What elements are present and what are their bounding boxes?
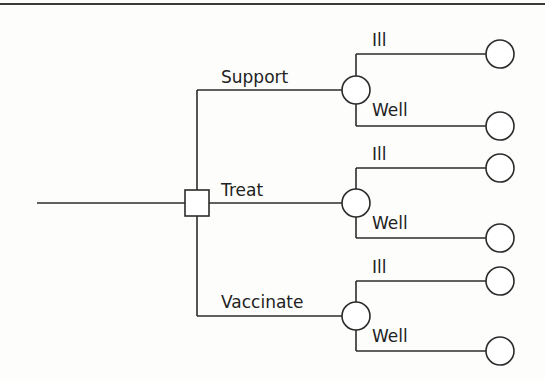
chance-node-vaccinate	[342, 302, 370, 330]
branch-treat: Treat Ill Well	[209, 144, 514, 252]
terminal-node-vaccinate-well	[486, 337, 514, 365]
outcome-support-ill-label: Ill	[372, 30, 386, 50]
outcome-support-well-label: Well	[372, 100, 408, 120]
terminal-node-support-well	[486, 112, 514, 140]
terminal-node-treat-ill	[486, 154, 514, 182]
terminal-node-support-ill	[486, 40, 514, 68]
decision-tree-diagram: Support Ill Well Treat Ill Well Vaccinat…	[0, 0, 545, 380]
outcome-treat-ill-label: Ill	[372, 144, 386, 164]
branch-support: Support Ill Well	[197, 30, 514, 140]
chance-node-support	[342, 76, 370, 104]
branch-vaccinate: Vaccinate Ill Well	[197, 257, 514, 365]
terminal-node-treat-well	[486, 224, 514, 252]
chance-node-treat	[342, 189, 370, 217]
decision-node	[185, 190, 209, 216]
terminal-node-vaccinate-ill	[486, 267, 514, 295]
outcome-treat-well-label: Well	[372, 213, 408, 233]
outcome-vaccinate-well-label: Well	[372, 326, 408, 346]
branch-support-label: Support	[221, 67, 289, 87]
branch-vaccinate-label: Vaccinate	[221, 292, 303, 312]
outcome-vaccinate-ill-label: Ill	[372, 257, 386, 277]
branch-treat-label: Treat	[220, 180, 263, 200]
